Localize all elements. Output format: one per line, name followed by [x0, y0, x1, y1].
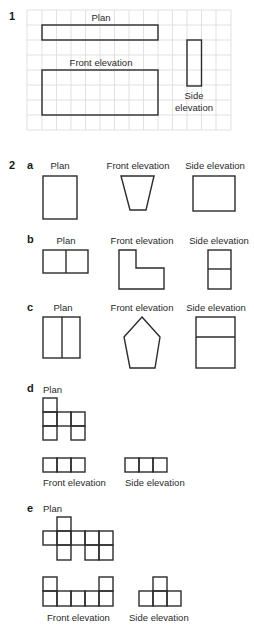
q1-side-label-line2: elevation — [175, 102, 213, 113]
q2c-front-label: Front elevation — [111, 302, 174, 313]
q2b-plan-label: Plan — [56, 235, 75, 246]
q2d-side-label: Side elevation — [125, 477, 185, 488]
q2a-side-label: Side elevation — [185, 160, 245, 171]
q2a-plan-label: Plan — [50, 160, 69, 171]
q2e-front-shape — [43, 577, 113, 606]
question-1-number: 1 — [9, 10, 15, 22]
q2a-plan-shape — [43, 176, 77, 219]
q2c-letter: c — [27, 301, 33, 313]
q2a-side-shape — [193, 176, 235, 211]
q2d-plan-shape — [43, 398, 85, 440]
q2d-front-shape — [43, 458, 85, 472]
q1-front-label: Front elevation — [70, 57, 133, 68]
q2e-side-label: Side elevation — [129, 612, 189, 623]
q2b-front-l-shape — [119, 250, 164, 289]
q2c-plan-label: Plan — [53, 302, 72, 313]
q1-side-label-line1: Side — [184, 90, 203, 101]
q2e-front-label: Front elevation — [47, 612, 110, 623]
q2e-side-shape — [139, 577, 181, 606]
q2d-front-label: Front elevation — [43, 477, 106, 488]
q2c-side-label: Side elevation — [186, 302, 246, 313]
q2e-plan-label: Plan — [43, 503, 62, 514]
q2b-letter: b — [27, 233, 34, 245]
q2a-front-label: Front elevation — [107, 160, 170, 171]
q2c-side-shape — [196, 317, 235, 368]
q2d-letter: d — [27, 382, 34, 394]
q2a-front-trapezoid — [121, 176, 154, 210]
q2e-plan-shape — [43, 517, 113, 560]
question-2-number: 2 — [9, 159, 15, 171]
q2a-letter: a — [27, 159, 34, 171]
q1-side-elevation-shape — [187, 40, 202, 86]
q2b-front-label: Front elevation — [111, 235, 174, 246]
worksheet-canvas: 1 Plan Front elevation Side elevation 2 … — [0, 0, 254, 631]
q2d-plan-label: Plan — [43, 384, 62, 395]
q1-plan-label: Plan — [91, 12, 110, 23]
q2e-letter: e — [27, 502, 33, 514]
q2b-side-label: Side elevation — [189, 235, 249, 246]
q2d-side-shape — [125, 458, 167, 472]
q2c-front-pentagon — [124, 317, 160, 368]
